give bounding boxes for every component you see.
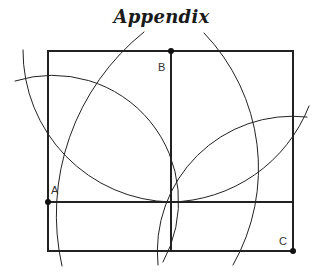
point-A bbox=[45, 199, 51, 205]
point-C bbox=[290, 248, 296, 254]
arc-center-B-left bbox=[23, 50, 171, 202]
point-B bbox=[168, 48, 174, 54]
arc-center-A-small bbox=[15, 75, 179, 262]
label-C: C bbox=[279, 235, 287, 247]
label-B: B bbox=[158, 61, 165, 73]
label-A: A bbox=[51, 184, 59, 196]
arc-center-C-through-B bbox=[56, 32, 144, 266]
geometric-construction: A B C bbox=[0, 0, 323, 275]
diagram: Appendix A B bbox=[0, 0, 323, 275]
arc-center-A-through-B bbox=[204, 33, 259, 265]
arc-center-B-right bbox=[171, 106, 309, 202]
